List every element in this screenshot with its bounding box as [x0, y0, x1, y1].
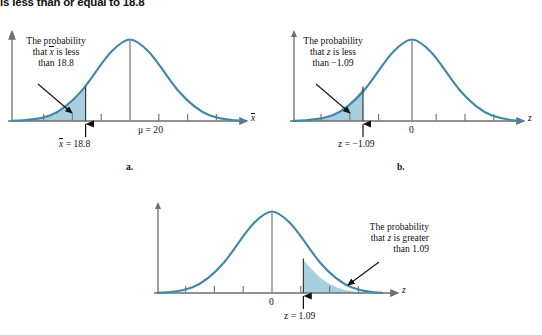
- annotation-leader-b: [316, 84, 350, 113]
- annotation-a-line3: than 18.8: [6, 57, 106, 68]
- x-bar-symbol: x: [49, 46, 53, 57]
- mean-label-a: μ = 20: [138, 124, 163, 135]
- annotation-c-line2: that z is greater: [325, 232, 429, 243]
- boundary-label-a: x = 18.8: [59, 138, 90, 149]
- mean-label-c: 0: [269, 296, 274, 307]
- x-bar-axis-symbol: x: [251, 113, 255, 123]
- y-axis-arrow-c: [155, 202, 161, 209]
- shaded-region-c: [303, 260, 374, 293]
- subfigure-label-a: a.: [126, 162, 133, 172]
- panel-a-chart: The probability that x is less than 18.8…: [0, 18, 270, 158]
- annotation-b: The probability that z is less than −1.0…: [283, 35, 383, 69]
- x-bar-symbol-label: x: [59, 138, 63, 149]
- z-axis-label-b: z: [528, 113, 532, 123]
- subfigure-label-b: b.: [397, 162, 405, 172]
- annotation-c: The probability that z is greater than 1…: [325, 221, 429, 255]
- boundary-label-c: z = 1.09: [284, 310, 315, 321]
- boundary-label-b: z = −1.09: [338, 138, 375, 149]
- annotation-c-line3: than 1.09: [325, 243, 429, 254]
- annotation-leader-a: [38, 84, 72, 113]
- mean-label-b: 0: [409, 124, 414, 135]
- annotation-c-line1: The probability: [325, 221, 429, 232]
- figure-caption: is less than or equal to 18.8: [0, 0, 144, 8]
- annotation-a-line1: The probability: [6, 35, 106, 46]
- panel-b-chart: The probability that z is less than −1.0…: [272, 18, 542, 158]
- annotation-a-line2: that x is less: [6, 46, 106, 57]
- panel-c-svg: [136, 190, 426, 335]
- annotation-leader-c: [348, 262, 379, 285]
- x-axis-label-a: x: [251, 113, 255, 123]
- annotation-b-line2: that z is less: [283, 46, 383, 57]
- z-axis-label-c: z: [402, 285, 406, 295]
- annotation-b-line1: The probability: [283, 35, 383, 46]
- annotation-a: The probability that x is less than 18.8: [6, 35, 106, 69]
- panel-c-chart: The probability that z is greater than 1…: [136, 190, 426, 335]
- annotation-b-line3: than −1.09: [283, 57, 383, 68]
